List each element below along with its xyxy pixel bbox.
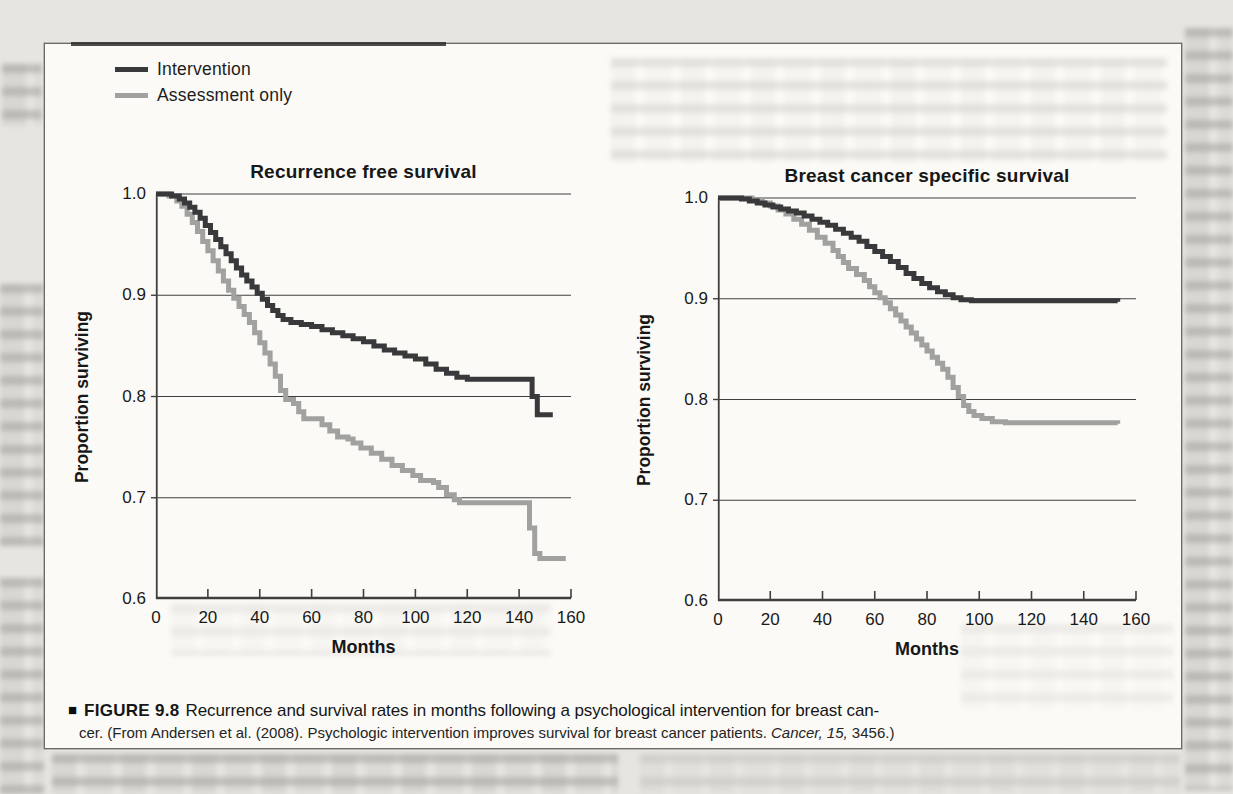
x-tick-label: 140 (1062, 610, 1106, 630)
figure-9-8-box: InterventionAssessment only Recurrence f… (44, 43, 1182, 749)
figure-caption: ■FIGURE 9.8Recurrence and survival rates… (79, 699, 1175, 743)
series-line-assessment-only (156, 194, 566, 559)
legend-item-assessment-only: Assessment only (115, 82, 292, 108)
ghost-bleedthrough-top-right (611, 58, 1167, 162)
survival-plot-1 (718, 198, 1142, 607)
y-tick-label: 1.0 (102, 184, 146, 204)
x-tick-label: 0 (134, 608, 178, 628)
y-tick-label: 0.9 (664, 289, 708, 309)
caption-journal-italic: Cancer, 15, (771, 724, 848, 741)
ghost-text-right-column (1185, 28, 1233, 790)
caption-text: Recurrence and survival rates in months … (186, 701, 880, 720)
series-line-assessment-only (718, 198, 1118, 424)
chart-title-0: Recurrence free survival (156, 161, 571, 183)
x-tick-label: 80 (905, 610, 949, 630)
x-tick-label: 40 (801, 610, 845, 630)
x-axis-label-0: Months (294, 637, 434, 658)
ghost-text-left-middle (0, 284, 44, 546)
x-axis-label-1: Months (857, 639, 997, 660)
chart-title-1: Breast cancer specific survival (718, 165, 1136, 187)
caption-source-text: cer. (From Andersen et al. (2008). Psych… (79, 724, 771, 741)
y-tick-label: 1.0 (664, 188, 708, 208)
legend-swatch-icon (115, 93, 148, 98)
y-tick-label: 0.9 (102, 285, 146, 305)
x-tick-label: 100 (393, 608, 437, 628)
x-tick-label: 20 (748, 610, 792, 630)
ghost-bleedthrough-mid-right (961, 624, 1173, 710)
x-tick-label: 120 (1010, 610, 1054, 630)
x-tick-label: 80 (342, 608, 386, 628)
caption-line-2: cer. (From Andersen et al. (2008). Psych… (79, 722, 1175, 743)
x-tick-label: 160 (1114, 610, 1158, 630)
square-bullet-icon: ■ (68, 698, 77, 721)
chart-legend: InterventionAssessment only (115, 56, 292, 108)
ghost-text-bottom-left (52, 754, 618, 794)
ghost-text-bottom-right (640, 754, 1180, 794)
y-axis-label-1: Proportion surviving (634, 300, 654, 500)
y-tick-label: 0.7 (102, 488, 146, 508)
x-tick-label: 120 (445, 608, 489, 628)
x-tick-label: 100 (957, 610, 1001, 630)
x-tick-label: 160 (549, 608, 593, 628)
series-line-intervention (718, 198, 1118, 302)
caption-line-1: ■FIGURE 9.8Recurrence and survival rates… (79, 699, 1175, 722)
ghost-text-left-bottom (0, 578, 44, 794)
x-tick-label: 140 (497, 608, 541, 628)
survival-plot-0 (156, 194, 577, 605)
ghost-text-left-top (2, 64, 42, 126)
legend-label: Assessment only (157, 85, 292, 106)
y-tick-label: 0.6 (664, 591, 708, 611)
legend-item-intervention: Intervention (115, 56, 292, 82)
legend-label: Intervention (157, 59, 251, 80)
scanned-page: { "figure": { "caption": { "bullet": "■"… (0, 0, 1233, 794)
x-tick-label: 40 (238, 608, 282, 628)
scan-artifact-dark-edge (71, 42, 446, 46)
y-tick-label: 0.8 (664, 390, 708, 410)
figure-number: FIGURE 9.8 (84, 701, 180, 720)
x-tick-label: 60 (290, 608, 334, 628)
legend-swatch-icon (115, 67, 148, 72)
y-tick-label: 0.8 (102, 387, 146, 407)
x-tick-label: 60 (853, 610, 897, 630)
y-axis-label-0: Proportion surviving (72, 297, 92, 497)
caption-source-end: 3456.) (848, 724, 895, 741)
y-tick-label: 0.7 (664, 490, 708, 510)
x-tick-label: 20 (186, 608, 230, 628)
series-line-intervention (156, 194, 553, 415)
y-tick-label: 0.6 (102, 589, 146, 609)
x-tick-label: 0 (696, 610, 740, 630)
